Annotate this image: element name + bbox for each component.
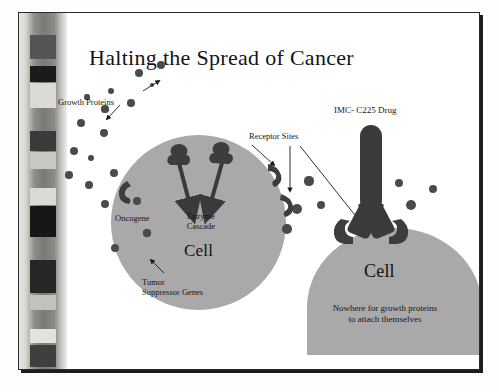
label-tumor-suppressor-line2: Suppressor Genes [142,287,203,297]
receptor-site-left-east [280,194,293,217]
receptor-sites-leader-1 [252,145,274,165]
caption-nowhere-to-attach: Nowhere for growth proteins to attach th… [300,303,470,325]
label-oncogene: Oncogene [115,213,149,223]
label-enzyme-cascade: Enzyme Cascade [177,211,225,232]
enzyme-cascade-arrow-2 [209,163,222,209]
receptor-site-left-west [119,181,131,204]
enzyme-cascade-arrow-1 [179,163,191,209]
tumor-suppressor-leader [151,260,164,273]
label-tumor-suppressor-line1: Tumor [142,277,165,287]
screenshot-root: Halting the Spread of Cancer Cell Cell [0,0,499,392]
label-enzyme-cascade-line2: Cascade [187,221,215,231]
label-enzyme-cascade-line1: Enzyme [187,211,215,221]
caption-line-2: to attach themselves [349,314,422,324]
caption-line-1: Nowhere for growth proteins [333,303,438,313]
slide-frame: Halting the Spread of Cancer Cell Cell [18,12,480,370]
growth-proteins-leader-1 [143,81,159,91]
imc-c225-drug-molecule [347,125,394,239]
label-growth-proteins: Growth Proteins [58,97,114,107]
label-receptor-sites: Receptor Sites [249,131,298,141]
receptor-site-left-northeast [268,164,281,187]
bound-protein-left-1 [167,144,190,165]
oncogene-marker [143,229,151,237]
label-imc-c225-drug: IMC- C225 Drug [334,105,397,116]
bound-protein-left-2 [209,142,233,164]
label-tumor-suppressor-genes: Tumor Suppressor Genes [142,277,203,298]
